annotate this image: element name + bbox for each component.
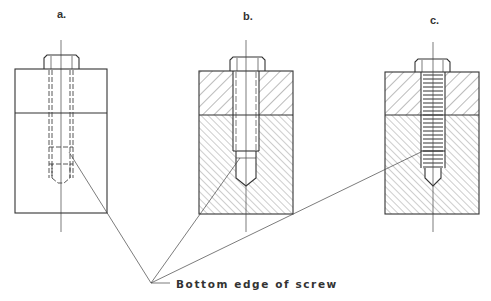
leader-b: [151, 158, 240, 283]
screw-head: [415, 59, 450, 72]
panel-a: a.: [15, 8, 107, 232]
callout-label: Bottom edge of screw: [176, 278, 338, 290]
screw-head: [44, 55, 79, 69]
panel-c: c.: [385, 14, 479, 232]
panel-a-label: a.: [57, 8, 66, 20]
screw-diagram: a. b. c.: [0, 0, 491, 301]
screw-head: [230, 57, 265, 71]
leader-a: [69, 152, 151, 283]
panel-b-label: b.: [243, 10, 253, 22]
panel-c-label: c.: [430, 14, 439, 26]
panel-b: b.: [199, 10, 293, 232]
